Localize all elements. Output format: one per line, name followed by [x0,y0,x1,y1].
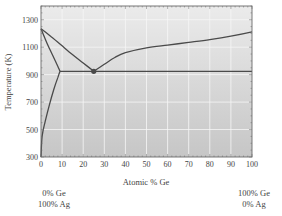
eutectic-point-marker [91,69,96,74]
x-axis-ticks: 0102030405060708090100 [39,160,258,169]
phase-diagram-chart: 0102030405060708090100 30050070090011001… [0,0,282,216]
y-tick-label: 900 [26,71,38,80]
y-tick-label: 1100 [22,43,38,52]
x-tick-label: 70 [185,160,193,169]
y-tick-label: 300 [26,153,38,162]
x-tick-label: 90 [227,160,235,169]
y-axis-ticks: 30050070090011001300 [22,16,38,162]
right-ge-percent: 100% Ge [226,188,282,199]
x-tick-label: 10 [58,160,66,169]
left-ag-percent: 100% Ag [24,199,84,210]
y-tick-label: 1300 [22,16,38,25]
left-ge-percent: 0% Ge [24,188,84,199]
x-tick-label: 20 [79,160,87,169]
left-composition-label: 0% Ge 100% Ag [24,188,84,210]
x-tick-label: 0 [39,160,43,169]
y-tick-label: 500 [26,126,38,135]
x-tick-label: 30 [100,160,108,169]
x-tick-label: 60 [164,160,172,169]
y-axis-title: Temperature (K) [3,53,13,110]
x-tick-label: 80 [206,160,214,169]
x-tick-label: 50 [143,160,151,169]
right-composition-label: 100% Ge 0% Ag [226,188,282,210]
y-tick-label: 700 [26,98,38,107]
x-tick-label: 40 [121,160,129,169]
x-tick-label: 100 [246,160,258,169]
x-axis-title: Atomic % Ge [123,177,170,187]
right-ag-percent: 0% Ag [226,199,282,210]
